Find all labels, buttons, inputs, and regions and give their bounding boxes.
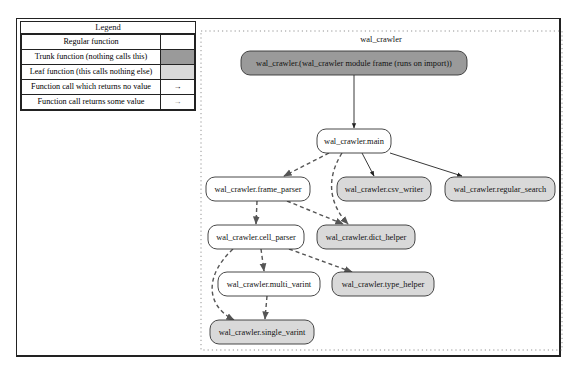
call-graph: wal_crawler wal_crawler.(wal_crawler mod… xyxy=(0,0,583,375)
node-label: wal_crawler.main xyxy=(324,137,385,146)
edge-multi_varint-to-single_varint xyxy=(265,296,267,319)
node-label: wal_crawler.(wal_crawler module frame (r… xyxy=(256,59,452,68)
node-frame-parser[interactable]: wal_crawler.frame_parser xyxy=(206,177,310,201)
node-cell-parser[interactable]: wal_crawler.cell_parser xyxy=(208,225,304,249)
node-label: wal_crawler.multi_varint xyxy=(227,280,312,289)
node-label: wal_crawler.single_varint xyxy=(219,328,306,337)
node-label: wal_crawler.frame_parser xyxy=(214,185,301,194)
node-label: wal_crawler.cell_parser xyxy=(216,233,296,242)
node-single-varint[interactable]: wal_crawler.single_varint xyxy=(210,320,314,344)
node-dict-helper[interactable]: wal_crawler.dict_helper xyxy=(317,225,415,249)
cluster-label: wal_crawler xyxy=(360,35,402,44)
node-label: wal_crawler.regular_search xyxy=(454,185,547,194)
node-multi-varint[interactable]: wal_crawler.multi_varint xyxy=(218,272,320,296)
node-label: wal_crawler.type_helper xyxy=(342,280,425,289)
edge-frame_parser-to-cell_parser xyxy=(256,201,257,224)
edge-main-to-regular_search xyxy=(390,153,462,176)
edge-main-to-frame_parser xyxy=(284,153,329,176)
edge-cell_parser-to-type_helper xyxy=(289,249,352,272)
edge-main-to-csv_writer xyxy=(362,153,374,176)
edge-frame_parser-to-dict_helper xyxy=(287,201,343,224)
node-main[interactable]: wal_crawler.main xyxy=(317,129,391,153)
node-module[interactable]: wal_crawler.(wal_crawler module frame (r… xyxy=(241,51,467,75)
node-csv-writer[interactable]: wal_crawler.csv_writer xyxy=(337,177,431,201)
node-type-helper[interactable]: wal_crawler.type_helper xyxy=(332,272,434,296)
edge-cell_parser-to-multi_varint xyxy=(261,249,264,271)
node-label: wal_crawler.csv_writer xyxy=(345,185,424,194)
node-label: wal_crawler.dict_helper xyxy=(326,233,407,242)
node-regular-search[interactable]: wal_crawler.regular_search xyxy=(445,177,555,201)
